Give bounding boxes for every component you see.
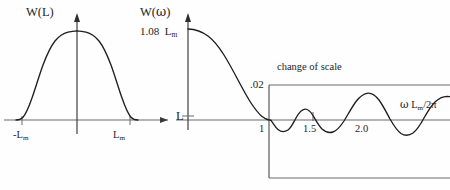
right-tick-label-1p5: 1.5 xyxy=(303,124,316,135)
figure-container: W(L) -Lm Lm L W(ω) 1.08 Lm change of sca… xyxy=(0,0,450,190)
right-y-axis-arrow xyxy=(185,13,191,22)
left-y-axis-arrow xyxy=(74,13,80,22)
right-peak-value-label: 1.08 Lm xyxy=(140,26,177,38)
left-x-axis-label: L xyxy=(176,110,184,123)
left-tick-label-pos-lm: Lm xyxy=(113,130,125,142)
right-x-axis-omega: ω xyxy=(400,98,409,110)
scale-box-value-label: .02 xyxy=(250,79,264,90)
figure-canvas xyxy=(0,0,450,190)
left-tick-pos-lm-subscript: m xyxy=(119,134,125,142)
left-axis-title: W(L) xyxy=(26,6,54,19)
right-axis-title-omega: ω xyxy=(156,4,166,19)
right-peak-unit-subscript: m xyxy=(171,30,177,39)
right-tick-label-2p0: 2.0 xyxy=(355,124,368,135)
right-axis-title: W(ω) xyxy=(140,6,170,19)
change-of-scale-note: change of scale xyxy=(277,62,342,73)
left-x-axis-arrow xyxy=(160,117,168,123)
right-tick-label-1: 1 xyxy=(259,124,264,135)
right-x-axis-label: ω Lm/2π xyxy=(400,99,437,112)
left-tick-neg-lm-subscript: m xyxy=(23,134,29,142)
left-tick-label-neg-lm: -Lm xyxy=(13,130,28,142)
right-panel xyxy=(176,13,450,178)
right-main-lobe-curve xyxy=(188,29,271,120)
